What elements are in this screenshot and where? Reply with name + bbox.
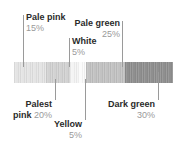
leader-line-pale-green: [122, 21, 123, 67]
bar-segment-palest-pink: [14, 62, 46, 83]
leader-line-palest-pink: [55, 79, 56, 100]
bar-segment-pale-green: [86, 62, 126, 83]
callout-yellow: Yellow 5%: [32, 119, 82, 140]
stacked-bar: [14, 62, 173, 83]
callout-palest-pink: Palest pink 20%: [0, 99, 52, 120]
chart-container: Pale pink 15% Pale green 25% White 5% Pa…: [0, 0, 187, 148]
callout-dark-green-percent: 30%: [98, 110, 155, 121]
leader-line-dark-green: [158, 72, 159, 100]
callout-white-percent: 5%: [72, 47, 97, 58]
callout-palest-pink-percent: 20%: [34, 110, 52, 120]
callout-dark-green: Dark green 30%: [98, 99, 155, 120]
callout-dark-green-name: Dark green: [98, 99, 155, 110]
callout-pale-green-name: Pale green: [60, 18, 120, 29]
leader-line-white: [69, 38, 70, 67]
leader-line-pale-pink: [23, 15, 24, 67]
callout-palest-pink-name-line1: Palest: [0, 99, 52, 110]
callout-palest-pink-name-line2: pink: [13, 110, 32, 120]
callout-white-name: White: [72, 36, 97, 47]
callout-white: White 5%: [72, 36, 97, 57]
bar-segment-pale-pink: [46, 62, 70, 83]
bar-segment-dark-green: [125, 62, 173, 83]
callout-yellow-percent: 5%: [32, 130, 82, 141]
leader-line-yellow: [85, 79, 86, 120]
callout-yellow-name: Yellow: [32, 119, 82, 130]
bar-segment-yellow: [70, 62, 78, 83]
